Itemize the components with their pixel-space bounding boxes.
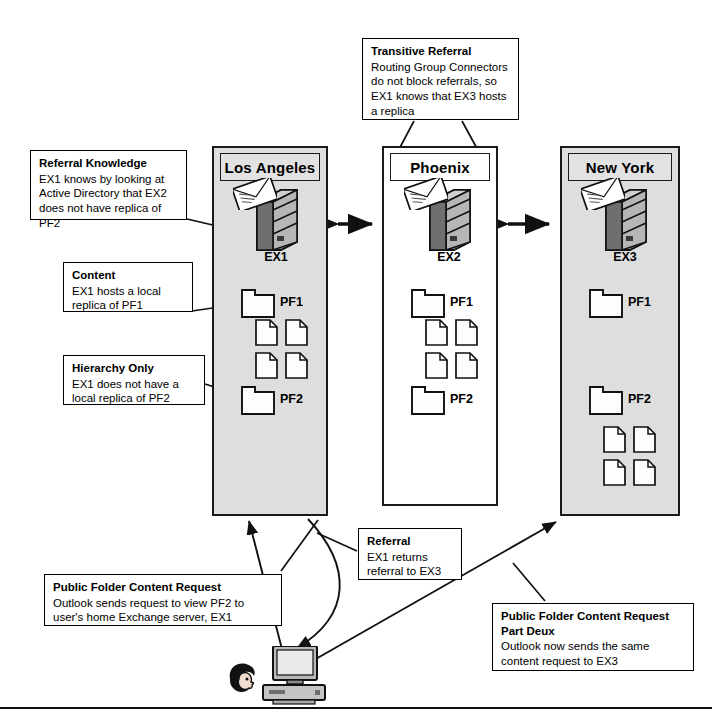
callout-body: Outlook now sends the same content reque… bbox=[501, 639, 686, 668]
server-label: EX1 bbox=[246, 250, 306, 264]
folder-icon bbox=[588, 288, 622, 317]
callout-title: Hierarchy Only bbox=[72, 361, 197, 376]
document-icon bbox=[254, 351, 277, 378]
callout-title: Public Folder Content Request Part Deux bbox=[501, 609, 686, 638]
document-icon bbox=[424, 351, 447, 378]
callout-body: EX1 knows by looking at Active Directory… bbox=[39, 172, 179, 231]
folder-label: PF1 bbox=[628, 295, 651, 309]
callout-body: EX1 does not have a local replica of PF2 bbox=[72, 377, 197, 406]
user-head-icon bbox=[223, 659, 263, 703]
callout-content-request-part-deux: Public Folder Content Request Part Deux … bbox=[492, 603, 694, 671]
document-icon bbox=[454, 351, 477, 378]
folder-label: PF2 bbox=[628, 392, 651, 406]
site-title: New York bbox=[568, 153, 672, 181]
callout-content: Content EX1 hosts a local replica of PF1 bbox=[63, 262, 193, 312]
callout-content-request: Public Folder Content Request Outlook se… bbox=[44, 574, 282, 626]
folder-icon bbox=[588, 385, 622, 414]
server-label: EX2 bbox=[419, 250, 479, 264]
footer-rule bbox=[0, 707, 712, 709]
folder-icon bbox=[240, 288, 274, 317]
site-title: Los Angeles bbox=[220, 153, 320, 181]
callout-body: EX1 returns referral to EX3 bbox=[367, 550, 454, 579]
folder-label: PF2 bbox=[450, 392, 473, 406]
callout-body: EX1 hosts a local replica of PF1 bbox=[72, 284, 185, 313]
document-icon bbox=[602, 425, 625, 452]
folder-icon bbox=[410, 385, 444, 414]
envelope-icon bbox=[581, 178, 625, 214]
document-icon bbox=[254, 318, 277, 345]
folder-label: PF1 bbox=[280, 295, 303, 309]
document-icon bbox=[284, 318, 307, 345]
document-icon bbox=[284, 351, 307, 378]
callout-title: Referral bbox=[367, 534, 454, 549]
diagram-canvas: Transitive Referral Routing Group Connec… bbox=[0, 0, 712, 724]
folder-icon bbox=[410, 288, 444, 317]
folder-label: PF2 bbox=[280, 392, 303, 406]
envelope-icon bbox=[233, 178, 277, 214]
document-icon bbox=[632, 458, 655, 485]
envelope-icon bbox=[404, 178, 448, 214]
callout-body: Outlook sends request to view PF2 to use… bbox=[53, 596, 274, 625]
callout-hierarchy-only: Hierarchy Only EX1 does not have a local… bbox=[63, 355, 205, 405]
document-icon bbox=[632, 425, 655, 452]
callout-title: Referral Knowledge bbox=[39, 156, 179, 171]
document-icon bbox=[454, 318, 477, 345]
desktop-computer-icon bbox=[261, 646, 327, 710]
site-title: Phoenix bbox=[390, 153, 490, 181]
folder-icon bbox=[240, 385, 274, 414]
callout-title: Public Folder Content Request bbox=[53, 580, 274, 595]
server-label: EX3 bbox=[595, 250, 655, 264]
folder-label: PF1 bbox=[450, 295, 473, 309]
document-icon bbox=[424, 318, 447, 345]
callout-title: Transitive Referral bbox=[371, 44, 511, 59]
callout-title: Content bbox=[72, 268, 185, 283]
callout-referral: Referral EX1 returns referral to EX3 bbox=[358, 528, 462, 580]
document-icon bbox=[602, 458, 625, 485]
callout-body: Routing Group Connectors do not block re… bbox=[371, 60, 511, 119]
callout-referral-knowledge: Referral Knowledge EX1 knows by looking … bbox=[30, 150, 187, 220]
callout-transitive-referral: Transitive Referral Routing Group Connec… bbox=[362, 38, 519, 120]
